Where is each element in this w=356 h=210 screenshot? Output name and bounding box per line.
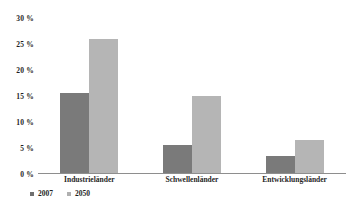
bar-2050-Schwellenländer[interactable] xyxy=(192,96,221,174)
y-axis-tick-label: 30 % xyxy=(16,14,34,23)
y-axis-tick-label: 10 % xyxy=(16,118,34,127)
legend-swatch-icon xyxy=(67,192,71,196)
y-axis-tick-label: 20 % xyxy=(16,66,34,75)
category-label: Entwicklungsländer xyxy=(251,175,339,187)
category-labels: IndustrieländerSchwellenländerEntwicklun… xyxy=(38,175,346,187)
bar-2007-Entwicklungsländer[interactable] xyxy=(266,156,295,174)
plot-area xyxy=(38,18,346,174)
bar-group xyxy=(45,18,133,174)
category-label: Schwellenländer xyxy=(148,175,236,187)
y-axis: 30 %25 %20 %15 %10 %5 %0 % xyxy=(0,14,34,174)
legend-item-2050[interactable]: 2050 xyxy=(67,189,90,198)
bar-2050-Entwicklungsländer[interactable] xyxy=(295,140,324,174)
legend-item-2007[interactable]: 2007 xyxy=(30,189,53,198)
legend-label: 2050 xyxy=(75,189,90,198)
bar-group xyxy=(148,18,236,174)
y-axis-tick-label: 15 % xyxy=(16,92,34,101)
x-axis-line xyxy=(38,173,346,174)
y-axis-tick-label: 25 % xyxy=(16,40,34,49)
bar-chart-figure: 30 %25 %20 %15 %10 %5 %0 % Industrieländ… xyxy=(0,0,356,210)
category-label: Industrieländer xyxy=(45,175,133,187)
chart-legend: 20072050 xyxy=(30,189,90,198)
bar-2007-Industrieländer[interactable] xyxy=(60,93,89,174)
y-axis-tick-label: 5 % xyxy=(20,144,34,153)
legend-label: 2007 xyxy=(38,189,53,198)
legend-swatch-icon xyxy=(30,192,34,196)
bar-2050-Industrieländer[interactable] xyxy=(89,39,118,174)
bar-groups xyxy=(38,18,346,174)
bar-2007-Schwellenländer[interactable] xyxy=(163,145,192,174)
y-axis-tick-label: 0 % xyxy=(20,170,34,179)
bar-group xyxy=(251,18,339,174)
